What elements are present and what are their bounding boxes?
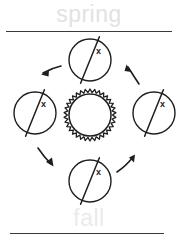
earth-right-axis — [145, 90, 164, 136]
arrow-bottom-right-shaft — [117, 157, 133, 172]
sun-rays-icon — [64, 89, 116, 141]
arrow-top-left — [41, 66, 61, 77]
sun-core — [69, 94, 111, 136]
divider-bottom — [10, 233, 164, 234]
earth-right-axis-label: x — [160, 99, 165, 109]
earth-left-axis — [26, 90, 45, 136]
arrow-top-right — [125, 65, 140, 85]
earth-bottom: x — [69, 158, 111, 204]
earth-right: x — [133, 90, 175, 136]
earth-left-axis-label: x — [41, 99, 46, 109]
earth-top-axis-label: x — [96, 46, 101, 56]
earth-bottom-axis — [81, 158, 100, 204]
earth-bottom-axis-label: x — [96, 167, 101, 177]
seasons-diagram: spring x x x x — [0, 0, 178, 242]
sun — [64, 89, 116, 141]
earth-top: x — [69, 37, 111, 83]
earth-top-axis — [81, 37, 100, 83]
arrow-bottom-left — [38, 148, 54, 167]
earth-left: x — [14, 90, 56, 136]
arrow-top-right-head-icon — [125, 65, 132, 73]
arrow-top-left-shaft — [43, 66, 61, 73]
arrow-bottom-right — [117, 155, 135, 173]
season-label-fall: fall — [0, 205, 178, 232]
